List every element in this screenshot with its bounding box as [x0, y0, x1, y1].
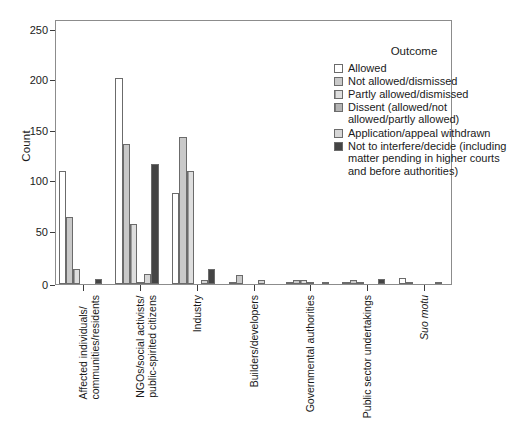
bar-no-interfere-group3	[208, 269, 215, 284]
y-axis: Count 250 200 150 100 50 0	[0, 0, 55, 434]
legend-label: Allowed	[348, 62, 511, 75]
bar-partly-allowed-group5	[300, 280, 307, 284]
bar-allowed-group2	[115, 78, 122, 284]
bar-no-interfere-group2	[151, 164, 158, 284]
legend-title: Outcome	[334, 45, 511, 58]
y-tick-100: 100	[0, 175, 55, 187]
x-axis-label-line1: Suo motu	[418, 295, 430, 340]
x-axis-label-line1: Builders/developers	[248, 295, 260, 387]
y-tick-label: 150	[30, 125, 48, 137]
legend: Outcome Allowed Not allowed/dismissed Pa…	[334, 45, 511, 178]
legend-item-withdrawn[interactable]: Application/appeal withdrawn	[334, 127, 511, 140]
x-tick-mark-4	[254, 285, 255, 291]
bar-group-4	[229, 21, 272, 284]
bar-not-allowed-group7	[406, 282, 413, 284]
y-tick-150: 150	[0, 125, 55, 137]
bar-allowed-group6	[342, 282, 349, 284]
x-tick-mark-5	[310, 285, 311, 291]
legend-item-no-interfere[interactable]: Not to interfere/decide (including matte…	[334, 140, 511, 178]
x-axis-label-7: Suo motu	[419, 295, 431, 340]
y-tick-250: 250	[0, 24, 55, 36]
bar-group-5	[286, 21, 329, 284]
x-axis-label-5: Governmental authorities	[305, 295, 317, 412]
x-axis-label-2: NGOs/social activists/public-spirited ci…	[135, 295, 158, 398]
bar-withdrawn-group4	[258, 280, 265, 284]
bar-not-allowed-group2	[123, 144, 130, 284]
x-axis-label-line1: NGOs/social activists/	[134, 296, 146, 398]
bar-not-allowed-group4	[236, 275, 243, 284]
x-axis: Affected individuals/communities/residen…	[55, 285, 452, 434]
y-tick-label: 50	[36, 226, 48, 238]
x-axis-label-line1: Industry	[191, 295, 203, 332]
bar-partly-allowed-group3	[187, 171, 194, 284]
bar-allowed-group1	[59, 171, 66, 284]
y-tick-label: 200	[30, 74, 48, 86]
bar-withdrawn-group2	[144, 274, 151, 284]
x-axis-label-line1: Governmental authorities	[304, 295, 316, 412]
bar-group-3	[172, 21, 215, 284]
plot-area: Outcome Allowed Not allowed/dismissed Pa…	[55, 20, 452, 285]
y-tick-200: 200	[0, 74, 55, 86]
swatch-no-interfere-icon	[334, 142, 343, 151]
bar-no-interfere-group5	[322, 282, 329, 284]
bar-partly-allowed-group6	[357, 282, 364, 284]
x-axis-label-line2: public-spirited citizens	[147, 295, 159, 398]
y-tick-50: 50	[0, 226, 55, 238]
bar-no-interfere-group7	[435, 282, 442, 284]
x-axis-label-3: Industry	[192, 295, 204, 332]
bar-dissent-group2	[137, 282, 144, 284]
bar-no-interfere-group6	[378, 279, 385, 284]
x-axis-label-line1: Public sector undertakings	[361, 295, 373, 418]
bar-dissent-group5	[307, 282, 314, 284]
legend-item-allowed[interactable]: Allowed	[334, 62, 511, 75]
bar-allowed-group7	[399, 278, 406, 284]
y-tick-label: 250	[30, 24, 48, 36]
bar-partly-allowed-group1	[73, 269, 80, 284]
swatch-allowed-icon	[334, 64, 343, 73]
bar-not-allowed-group6	[350, 280, 357, 284]
x-axis-label-4: Builders/developers	[249, 295, 261, 387]
bar-group-1	[59, 21, 102, 284]
bar-not-allowed-group1	[66, 217, 73, 284]
legend-label: Application/appeal withdrawn	[348, 127, 511, 140]
bar-group-2	[115, 21, 158, 284]
x-tick-mark-3	[197, 285, 198, 291]
y-tick-label: 0	[42, 279, 48, 291]
x-tick-mark-7	[424, 285, 425, 291]
y-axis-title: Count	[20, 106, 32, 186]
bar-not-allowed-group5	[293, 280, 300, 284]
bar-not-allowed-group3	[179, 137, 186, 284]
legend-label: Not to interfere/decide (including matte…	[348, 140, 511, 178]
x-tick-mark-1	[83, 285, 84, 291]
swatch-withdrawn-icon	[334, 129, 343, 138]
swatch-partly-icon	[334, 90, 343, 99]
x-axis-label-6: Public sector undertakings	[362, 295, 374, 418]
y-tick-label: 100	[30, 175, 48, 187]
x-axis-label-line1: Affected individuals/	[77, 306, 89, 399]
x-axis-label-line2: communities/residents	[90, 295, 102, 399]
bar-allowed-group5	[286, 282, 293, 284]
legend-item-partly-allowed[interactable]: Partly allowed/dismissed	[334, 88, 511, 101]
swatch-not-allowed-icon	[334, 77, 343, 86]
x-tick-mark-2	[140, 285, 141, 291]
legend-label: Not allowed/dismissed	[348, 75, 511, 88]
bar-no-interfere-group1	[95, 279, 102, 284]
bar-partly-allowed-group2	[130, 224, 137, 284]
legend-label: Partly allowed/dismissed	[348, 88, 511, 101]
legend-item-not-allowed[interactable]: Not allowed/dismissed	[334, 75, 511, 88]
legend-label: Dissent (allowed/not allowed/partly allo…	[348, 101, 511, 126]
y-tick-0: 0	[0, 279, 55, 291]
bar-withdrawn-group3	[201, 280, 208, 284]
bar-allowed-group3	[172, 193, 179, 284]
x-axis-label-1: Affected individuals/communities/residen…	[78, 295, 101, 399]
swatch-dissent-icon	[334, 103, 343, 112]
x-tick-mark-6	[367, 285, 368, 291]
legend-item-dissent[interactable]: Dissent (allowed/not allowed/partly allo…	[334, 101, 511, 126]
bar-allowed-group4	[229, 282, 236, 284]
